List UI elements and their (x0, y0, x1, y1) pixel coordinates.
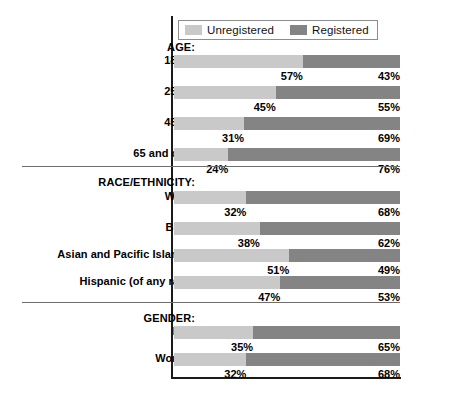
bar-segment-registered-25-44 (276, 86, 400, 99)
bar-segment-unregistered-18-24 (174, 55, 303, 68)
value-label-unregistered-women: 32% (224, 368, 246, 380)
bar-segment-registered-men (253, 326, 400, 339)
value-label-unregistered-65-and-over: 24% (206, 163, 228, 175)
bar-segment-unregistered-men (174, 326, 253, 339)
bar-segment-registered-asian-and-pacific-islander (289, 249, 400, 262)
bar-asian-and-pacific-islander (174, 249, 400, 262)
bar-segment-unregistered-45-64 (174, 117, 244, 130)
section-title-race-ethnicity: RACE/ETHNICITY: (98, 176, 195, 188)
bar-segment-unregistered-hispanic-of-any-race (174, 276, 280, 289)
bar-65-and-over (174, 148, 400, 161)
bar-18-24 (174, 55, 400, 68)
value-label-unregistered-black: 38% (238, 237, 260, 249)
bar-segment-registered-45-64 (244, 117, 400, 130)
bar-25-44 (174, 86, 400, 99)
bar-segment-registered-black (260, 222, 400, 235)
bar-segment-unregistered-asian-and-pacific-islander (174, 249, 289, 262)
bar-segment-registered-18-24 (303, 55, 400, 68)
value-label-unregistered-18-24: 57% (281, 70, 303, 82)
bar-segment-unregistered-65-and-over (174, 148, 228, 161)
value-label-registered-18-24: 43% (378, 70, 400, 82)
bar-black (174, 222, 400, 235)
value-label-unregistered-45-64: 31% (222, 132, 244, 144)
value-label-registered-women: 68% (378, 368, 400, 380)
bar-women (174, 353, 400, 366)
value-label-unregistered-white: 32% (224, 206, 246, 218)
value-label-registered-45-64: 69% (378, 132, 400, 144)
bar-segment-unregistered-white (174, 191, 246, 204)
value-label-registered-65-and-over: 76% (378, 163, 400, 175)
bar-segment-unregistered-black (174, 222, 260, 235)
bar-hispanic-of-any-race (174, 276, 400, 289)
legend-item-registered: Registered (290, 24, 369, 36)
value-label-unregistered-25-44: 45% (254, 101, 276, 113)
section-title-gender: GENDER: (144, 312, 195, 324)
section-title-age: AGE: (167, 41, 195, 53)
legend-label-registered: Registered (312, 24, 369, 36)
value-label-registered-white: 68% (378, 206, 400, 218)
bar-segment-registered-hispanic-of-any-race (280, 276, 400, 289)
chart-legend: Unregistered Registered (178, 20, 378, 40)
bar-segment-registered-65-and-over (228, 148, 400, 161)
bar-white (174, 191, 400, 204)
value-label-registered-asian-and-pacific-islander: 49% (378, 264, 400, 276)
bar-45-64 (174, 117, 400, 130)
bar-men (174, 326, 400, 339)
bar-segment-unregistered-25-44 (174, 86, 276, 99)
legend-swatch-unregistered (185, 25, 202, 35)
value-label-registered-25-44: 55% (378, 101, 400, 113)
legend-label-unregistered: Unregistered (207, 24, 274, 36)
value-label-unregistered-asian-and-pacific-islander: 51% (267, 264, 289, 276)
bar-segment-registered-women (246, 353, 400, 366)
legend-swatch-registered (290, 25, 307, 35)
section-divider-2 (22, 302, 400, 303)
value-label-registered-black: 62% (378, 237, 400, 249)
legend-item-unregistered: Unregistered (185, 24, 274, 36)
value-label-unregistered-men: 35% (231, 341, 253, 353)
section-divider-1 (22, 166, 400, 167)
horizontal-baseline (171, 377, 401, 379)
bar-segment-unregistered-women (174, 353, 246, 366)
registration-status-chart: Unregistered Registered AGE:18–2457%43%2… (0, 0, 449, 398)
value-label-registered-men: 65% (378, 341, 400, 353)
bar-segment-registered-white (246, 191, 400, 204)
